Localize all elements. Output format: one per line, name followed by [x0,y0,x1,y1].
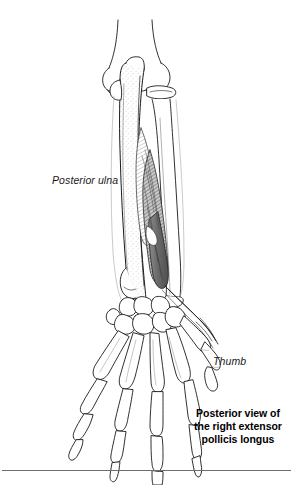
bottom-divider-rule [2,470,291,471]
metacarpal-bones [93,328,190,392]
anatomical-figure: Posterior ulna Thumb Posterior view of t… [0,0,293,485]
phalanx-bones-digit3 [150,392,163,485]
anatomy-illustration [0,0,293,485]
phalanx-bones-digit2 [184,380,202,477]
phalanx-bones-digit5 [69,379,107,460]
phalanx-bones-digit4 [110,389,133,482]
